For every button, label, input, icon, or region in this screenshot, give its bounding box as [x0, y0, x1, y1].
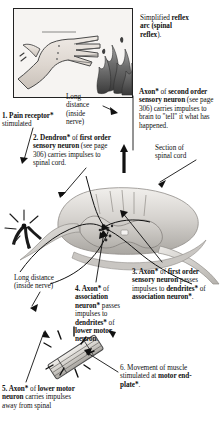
figure-title: Simplified reflex arc (spinal reflex).: [140, 14, 218, 39]
label-axon-first-order-sensory-neuron: 3. Axon* of first order sensory neuron p…: [132, 268, 220, 302]
section-line2: spinal cord: [155, 152, 186, 160]
axon4-plain4: .: [97, 335, 99, 343]
arrow-icon: [120, 144, 128, 173]
hand-flame-illustration: [14, 9, 132, 97]
label-long-distance-bottom: Long distance (inside nerve): [14, 274, 76, 291]
label-axon-lower-motor-neuron: 5. Axon* of lower motor neuron carries i…: [2, 385, 82, 410]
axon5-number: 5.: [2, 385, 9, 393]
axon2-bold1: Axon*: [139, 88, 159, 96]
longd2-line2: (inside nerve): [14, 282, 53, 290]
axon5-plain1: of: [28, 385, 37, 393]
longd2-line1: Long distance: [14, 274, 54, 282]
axon4-bold4: lower motor neuron: [75, 327, 112, 343]
axon3-plain3: of: [198, 285, 206, 293]
axon3-plain4: .: [192, 293, 194, 301]
figure-page: Simplified reflex arc (spinal reflex). A…: [0, 0, 221, 421]
pain-bold: Pain receptor*: [9, 112, 53, 120]
pain-plain: stimulated: [2, 120, 31, 128]
label-long-distance-top: Long distance (inside nerve): [66, 93, 100, 127]
pain-number: 1.: [2, 112, 9, 120]
hand-flame-photo-panel: [13, 8, 133, 98]
move6-number: 6.: [120, 364, 127, 372]
axon3-plain1: of: [158, 268, 167, 276]
spinal-cord-body: [58, 188, 198, 255]
axon4-bold3: dendrites*: [75, 319, 107, 327]
longd1-line4: nerve): [66, 118, 84, 126]
dendron-number: 2.: [33, 134, 40, 142]
title-line1-plain: Simplified: [140, 14, 172, 22]
dendron-bold1: Dendron*: [40, 134, 70, 142]
axon3-bold3: dendrites*: [166, 285, 198, 293]
axon4-bold1: Axon*: [82, 285, 102, 293]
axon3-bold4: association neuron*: [132, 293, 192, 301]
label-pain-receptor: 1. Pain receptor* stimulated: [2, 112, 64, 129]
longd1-line2: distance: [66, 101, 89, 109]
title-line2-bold: arc (spinal: [140, 22, 172, 30]
axon3-number: 3.: [132, 268, 139, 276]
label-section-of-spinal-cord: Section of spinal cord: [155, 144, 217, 161]
label-dendron-first-order-sensory-neuron: 2. Dendron* of first order sensory neuro…: [33, 134, 117, 168]
axon4-plain1: of: [101, 285, 109, 293]
axon4-plain3: of: [107, 319, 115, 327]
section-line1: Section of: [155, 144, 184, 152]
label-movement-of-muscle: 6. Movement of muscle stimulated at moto…: [120, 364, 192, 389]
title-line3-bold: reflex: [140, 31, 157, 39]
axon3-bold1: Axon*: [139, 268, 159, 276]
axon5-bold1: Axon*: [9, 385, 29, 393]
label-axon-second-order-sensory-neuron: Axon* of second order sensory neuron (se…: [139, 88, 221, 130]
label-axon-association-neuron: 4. Axon* of association neuron* passes i…: [75, 285, 130, 344]
axon2-plain1: of: [159, 88, 168, 96]
longd1-line1: Long: [66, 93, 81, 101]
longd1-line3: (inside: [66, 110, 85, 118]
axon4-number: 4.: [75, 285, 82, 293]
title-line3-plain: ).: [157, 31, 161, 39]
central-canal: [121, 230, 128, 235]
dendron-plain1: of: [70, 134, 79, 142]
move6-plain2: .: [138, 381, 140, 389]
title-line1-bold: reflex: [172, 14, 189, 22]
